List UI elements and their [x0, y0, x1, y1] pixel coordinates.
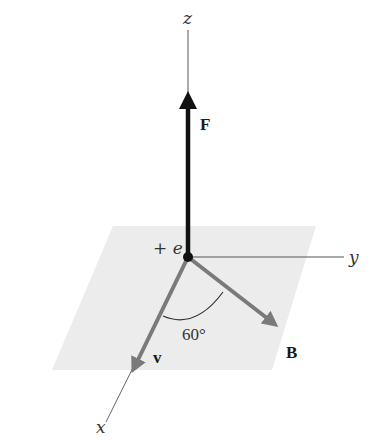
magnetic-force-diagram: z y x + e F v B 60°	[0, 0, 371, 440]
angle-label: 60°	[182, 325, 206, 344]
charge-label: + e	[153, 238, 183, 258]
x-axis-label: x	[96, 417, 106, 437]
velocity-label: v	[153, 348, 162, 367]
charge-dot	[183, 252, 193, 262]
y-axis-label: y	[348, 247, 359, 267]
field-label: B	[286, 343, 297, 362]
xy-plane	[52, 226, 316, 370]
force-label: F	[200, 115, 210, 134]
z-axis-label: z	[182, 8, 193, 28]
